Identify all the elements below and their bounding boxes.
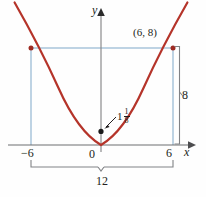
focal-distance-denominator: 8 [124,116,130,125]
focus-leader-arrow [104,117,116,129]
point-left-endpoint [29,46,34,51]
width-measure-label: 12 [96,175,108,187]
focal-distance-fraction: 1 8 [124,108,130,125]
point-coordinate-label: (6, 8) [133,27,157,38]
y-axis-arrowhead [97,8,105,16]
focal-distance-whole: 1 [117,111,123,122]
origin-label: 0 [89,148,95,160]
y-axis-label: y [92,4,97,16]
parabola-diagram [0,0,206,197]
width-brace [31,160,173,171]
x-tick-label-positive-six: 6 [166,147,172,159]
x-axis-label: x [184,146,189,158]
focus-point [98,129,103,134]
focal-distance-label: 1 1 8 [117,108,130,125]
x-tick-label-negative-six: −6 [21,147,34,159]
focal-distance-numerator: 1 [124,108,130,116]
height-measure-label: 8 [182,89,188,101]
